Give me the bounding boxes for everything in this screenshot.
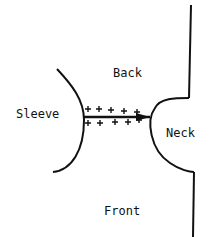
stitch-marks-top	[85, 106, 140, 115]
sleeve-label: Sleeve	[16, 108, 59, 120]
neck-label: Neck	[166, 127, 195, 139]
stitch-marks-bottom	[85, 117, 142, 126]
front-label: Front	[104, 205, 140, 217]
back-edge-line	[189, 5, 191, 98]
front-edge-line	[193, 172, 194, 237]
back-label: Back	[113, 67, 142, 79]
